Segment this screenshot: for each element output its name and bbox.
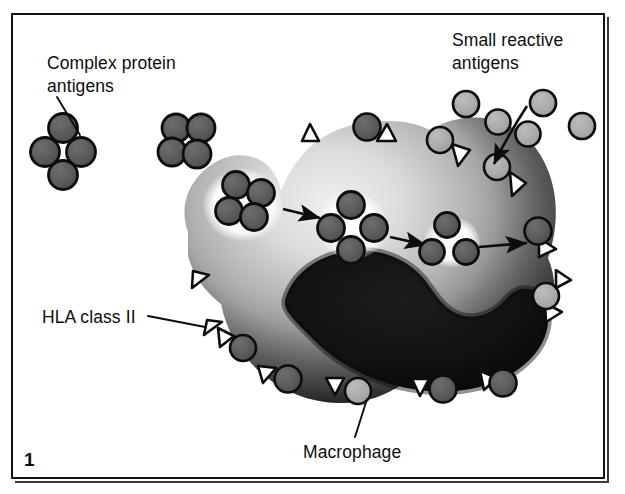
small-antigen [453, 91, 479, 117]
small-antigen [486, 110, 511, 135]
leader-line-hla-class-ii [148, 316, 205, 327]
membrane-antigen-complex [354, 114, 381, 141]
membrane-antigen-complex [430, 376, 457, 403]
complex-antigen-cluster-free-left [31, 114, 96, 190]
label-macrophage: Macrophage [303, 441, 401, 464]
hla-triangle-icon [302, 124, 319, 141]
membrane-antigen-complex [275, 366, 302, 393]
label-small-reactive-antigens: Small reactive antigens [452, 29, 563, 75]
complex-antigen-cluster-free-top [158, 114, 215, 168]
membrane-antigen-complex [525, 218, 552, 245]
membrane-antigen-complex [490, 370, 517, 397]
hla-triangle-icon [556, 270, 571, 288]
small-antigen [516, 122, 541, 147]
figure-root: Complex protein antigens Small reactive … [0, 0, 625, 494]
small-antigen [569, 113, 595, 139]
small-antigen [530, 90, 556, 116]
membrane-antigen-complex [230, 335, 256, 361]
membrane-antigen-small [427, 127, 453, 153]
label-hla-class-ii: HLA class II [42, 306, 136, 329]
figure-number: 1 [24, 449, 35, 471]
label-complex-protein-antigens: Complex protein antigens [47, 52, 176, 98]
